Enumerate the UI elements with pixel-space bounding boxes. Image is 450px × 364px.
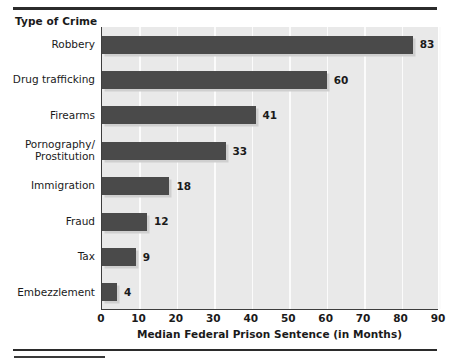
bar-row: 33 — [102, 142, 247, 160]
bar-row: 60 — [102, 71, 348, 89]
bar — [102, 213, 147, 231]
x-axis-tick-label: 0 — [97, 312, 104, 324]
x-axis-tick-label: 40 — [243, 312, 258, 324]
bar — [102, 142, 226, 160]
bar-value-label: 41 — [263, 110, 278, 121]
x-axis-tick-labels: 0102030405060708090 — [101, 312, 438, 326]
bar-row: 83 — [102, 36, 434, 54]
y-axis-label: Tax — [0, 251, 95, 263]
y-axis-label: Pornography/ Prostitution — [0, 139, 95, 162]
bar-value-label: 83 — [420, 39, 435, 50]
gridline — [439, 27, 441, 309]
bar-value-label: 12 — [154, 216, 169, 227]
bar-row: 4 — [102, 283, 131, 301]
bar — [102, 283, 117, 301]
x-axis-tick-label: 70 — [356, 312, 371, 324]
bar-row: 41 — [102, 106, 277, 124]
bar-value-label: 18 — [176, 181, 191, 192]
bar-row: 12 — [102, 213, 169, 231]
y-axis-label: Drug trafficking — [0, 74, 95, 86]
plot-area: 83604133181294 — [101, 27, 438, 310]
x-axis-tick-label: 80 — [393, 312, 408, 324]
bar-value-label: 60 — [334, 75, 349, 86]
bar — [102, 36, 413, 54]
x-axis-tick-label: 50 — [281, 312, 296, 324]
y-axis-label: Embezzlement — [0, 287, 95, 299]
bar-series: 83604133181294 — [102, 27, 438, 309]
bottom-divider-rule — [13, 349, 437, 351]
bar — [102, 248, 136, 266]
top-divider-rule — [13, 7, 437, 10]
bar-value-label: 9 — [143, 252, 150, 263]
y-axis-label: Immigration — [0, 180, 95, 192]
bar — [102, 177, 169, 195]
x-axis-tick-label: 60 — [318, 312, 333, 324]
bar-value-label: 33 — [233, 146, 248, 157]
y-axis-title: Type of Crime — [15, 15, 97, 27]
y-axis-label: Fraud — [0, 216, 95, 228]
x-axis-tick-label: 20 — [169, 312, 184, 324]
x-axis-tick-label: 90 — [431, 312, 446, 324]
bottom-secondary-rule — [14, 356, 105, 358]
bar-row: 18 — [102, 177, 191, 195]
y-axis-label: Firearms — [0, 110, 95, 122]
bar — [102, 71, 327, 89]
bar-value-label: 4 — [124, 287, 131, 298]
x-axis-tick-label: 10 — [131, 312, 146, 324]
y-axis-category-labels: RobberyDrug traffickingFirearmsPornograp… — [0, 27, 95, 310]
bar — [102, 106, 256, 124]
bar-row: 9 — [102, 248, 150, 266]
x-axis-tick-label: 30 — [206, 312, 221, 324]
x-axis-title: Median Federal Prison Sentence (in Month… — [101, 328, 438, 340]
y-axis-label: Robbery — [0, 39, 95, 51]
